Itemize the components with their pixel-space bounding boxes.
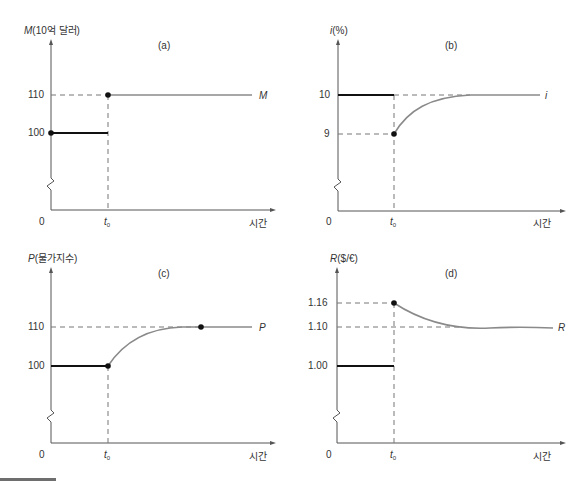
series-after-b: [394, 95, 540, 134]
x-axis-label-b: 시간: [533, 218, 551, 229]
series-label-a: M: [259, 90, 268, 101]
y-axis-a: [47, 42, 54, 210]
origin-b: 0: [326, 216, 332, 227]
x-axis-label-c: 시간: [249, 451, 267, 462]
panel-label-a: (a): [158, 40, 170, 51]
origin-a: 0: [39, 216, 45, 227]
point-c-end: [198, 324, 204, 330]
y-axis-b: [334, 42, 341, 211]
point-d-overshoot: [391, 300, 397, 306]
t0-d: t0: [390, 449, 397, 461]
ytick-b-9: 9: [324, 128, 330, 139]
ytick-a-110: 110: [28, 89, 44, 100]
t0-c: t0: [104, 449, 111, 461]
ytick-d-100: 1.00: [308, 360, 328, 371]
series-after-c: [108, 327, 252, 366]
y-axis-label-b: i(%): [330, 25, 348, 36]
ytick-d-110: 1.10: [308, 321, 328, 332]
series-label-c: P: [259, 322, 266, 333]
ytick-a-100: 100: [28, 127, 45, 138]
x-axis-label-a: 시간: [249, 218, 267, 229]
point-a-jump: [105, 92, 111, 98]
panel-label-d: (d): [445, 268, 457, 279]
y-axis-d: [333, 270, 340, 443]
ytick-c-100: 100: [28, 360, 45, 371]
ytick-c-110: 110: [28, 321, 44, 332]
t0-a: t0: [104, 216, 111, 228]
point-c-start: [105, 363, 111, 369]
series-label-b: i: [545, 90, 548, 101]
panel-c: P(물가지수) (c) 110 100 0 t0 시간 P: [28, 253, 273, 462]
origin-d: 0: [326, 449, 332, 460]
panel-a: M(10억 달러) (a) 110 100 0 t0 시간 M: [24, 25, 273, 229]
panel-b: i(%) (b) 10 9 0 t0 시간 i: [319, 25, 563, 229]
point-a-start: [48, 130, 54, 136]
y-axis-c: [47, 270, 54, 443]
y-axis-label-a: M(10억 달러): [24, 25, 80, 36]
panel-label-c: (c): [158, 268, 170, 279]
panel-d: R($/€) (d) 1.16 1.10 1.00 0 t0 시간 R: [308, 253, 565, 462]
figure-canvas: M(10억 달러) (a) 110 100 0 t0 시간 M i(%) (b)…: [0, 0, 583, 481]
origin-c: 0: [39, 449, 45, 460]
ytick-b-10: 10: [319, 89, 331, 100]
y-axis-label-c: P(물가지수): [28, 253, 77, 264]
series-label-d: R: [558, 322, 565, 333]
series-after-d: [394, 303, 553, 328]
x-axis-label-d: 시간: [533, 451, 551, 462]
y-axis-label-d: R($/€): [330, 253, 358, 264]
panel-label-b: (b): [445, 40, 457, 51]
ytick-d-116: 1.16: [308, 297, 328, 308]
t0-b: t0: [390, 216, 397, 228]
point-b-drop: [391, 131, 397, 137]
